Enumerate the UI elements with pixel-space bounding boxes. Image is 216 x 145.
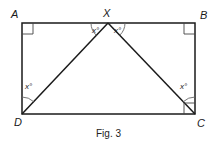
angle-label-adx: x° bbox=[24, 82, 33, 91]
vertex-label-x: X bbox=[102, 7, 111, 19]
rectangle-abcd bbox=[22, 23, 195, 114]
vertex-label-d: D bbox=[14, 116, 22, 128]
angle-arc-adx bbox=[22, 97, 34, 102]
right-angle-marker-b bbox=[184, 23, 195, 34]
vertex-label-c: C bbox=[197, 117, 205, 129]
vertex-label-a: A bbox=[10, 8, 18, 20]
angle-label-bcx: x° bbox=[179, 82, 188, 91]
figure-caption: Fig. 3 bbox=[96, 128, 121, 139]
geometry-figure: x° x° x° x° A X B D C Fig. 3 bbox=[0, 0, 216, 145]
angle-label-bxc: x° bbox=[113, 26, 122, 35]
segment-xd bbox=[22, 23, 108, 114]
segment-xc bbox=[108, 23, 195, 114]
right-angle-marker-a bbox=[22, 23, 33, 34]
angle-label-axd: x° bbox=[91, 26, 100, 35]
vertex-label-b: B bbox=[200, 9, 207, 21]
angle-arc-bcx bbox=[183, 97, 195, 102]
